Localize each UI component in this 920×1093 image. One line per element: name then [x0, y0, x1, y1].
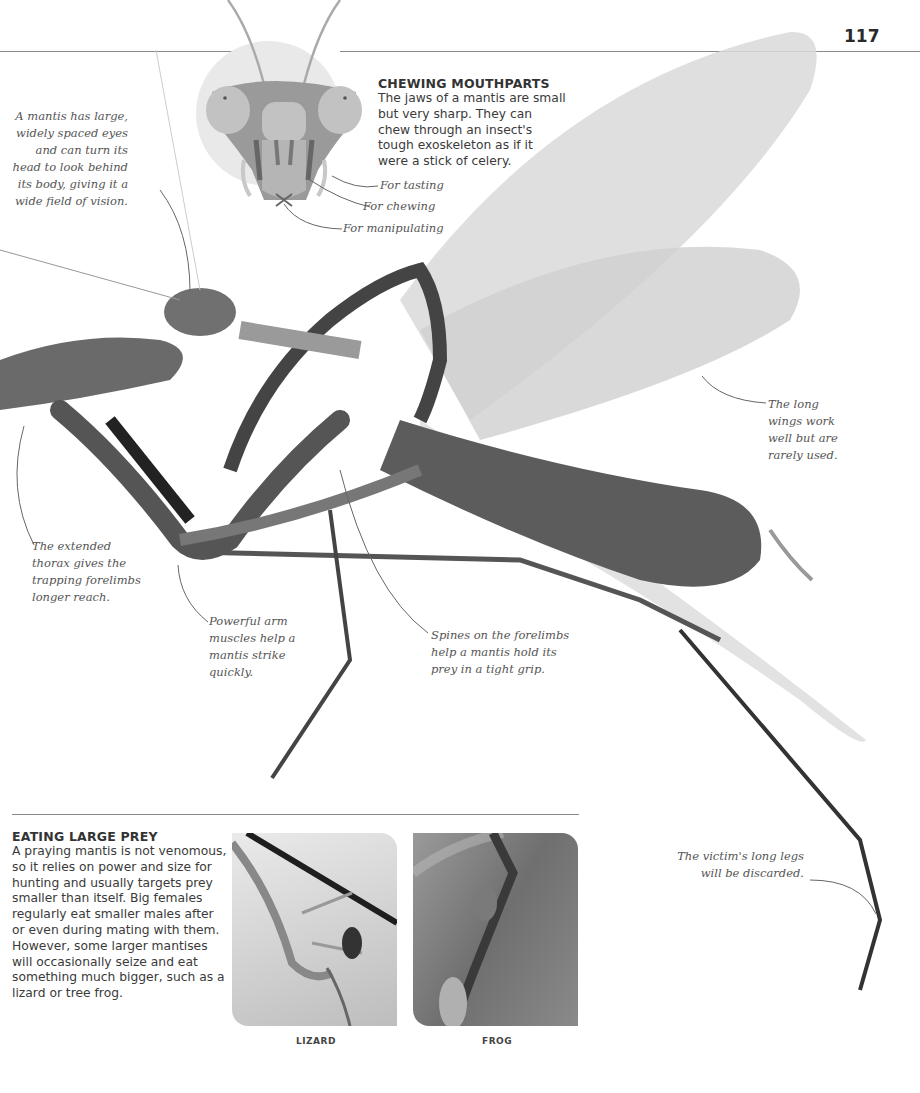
annotation-eyes: A mantis has large, widely spaced eyes a… [10, 108, 128, 210]
photo-frog [413, 833, 578, 1026]
label-chewing: For chewing [363, 198, 435, 215]
annotation-wings: The long wings work well but are rarely … [768, 396, 838, 464]
mantis-thorax-icon [0, 338, 183, 411]
bottom-rule [12, 814, 579, 815]
mantis-with-lizard-icon [232, 833, 397, 1026]
eating-large-prey-box: EATING LARGE PREY A praying mantis is no… [12, 829, 227, 1002]
annotation-spines: Spines on the forelimbs help a mantis ho… [431, 627, 569, 678]
mantis-with-frog-icon [413, 833, 578, 1026]
mouthparts-title: CHEWING MOUTHPARTS [378, 76, 578, 91]
caption-lizard: LIZARD [296, 1036, 336, 1046]
mouthparts-text: The jaws of a mantis are small but very … [378, 91, 578, 170]
abdomen-icon [380, 420, 761, 587]
caption-frog: FROG [482, 1036, 512, 1046]
label-tasting: For tasting [380, 177, 444, 194]
mouthparts-box: CHEWING MOUTHPARTS The jaws of a mantis … [378, 76, 578, 170]
prey-text: A praying mantis is not venomous, so it … [12, 844, 227, 1002]
annotation-victim-legs: The victim's long legs will be discarded… [660, 848, 804, 882]
annotation-thorax: The extended thorax gives the trapping f… [32, 538, 141, 606]
label-manipulating: For manipulating [343, 220, 444, 237]
annotation-arm-muscles: Powerful arm muscles help a mantis strik… [209, 613, 295, 681]
photo-lizard [232, 833, 397, 1026]
prey-title: EATING LARGE PREY [12, 829, 227, 844]
